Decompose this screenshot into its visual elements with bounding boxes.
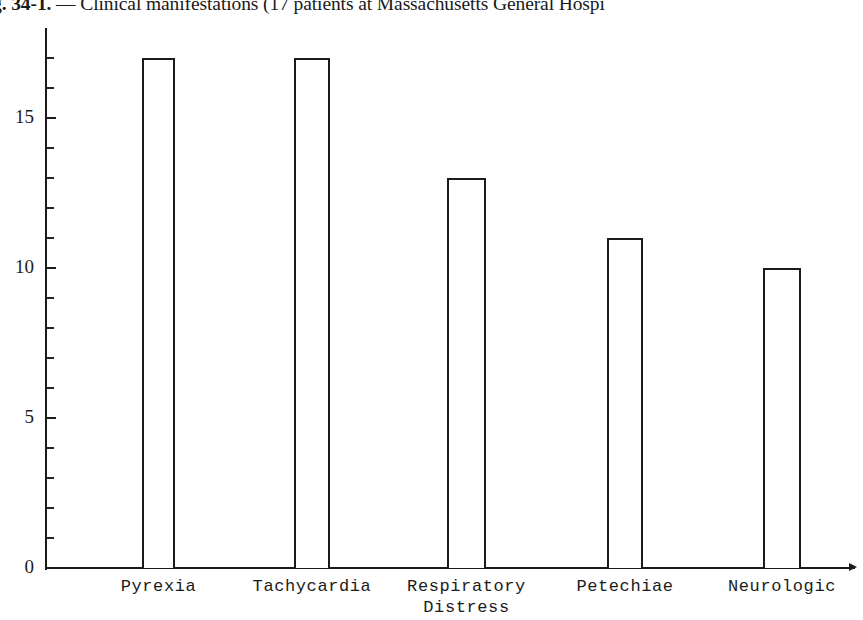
bar	[763, 268, 801, 568]
y-axis-tick-label: 5	[0, 406, 34, 428]
bar-chart-plot-area: 051015 PyrexiaTachycardiaRespiratory Dis…	[0, 0, 863, 620]
y-axis-minor-tick	[47, 87, 54, 89]
y-axis-tick-label: 10	[0, 256, 34, 278]
x-axis-category-label: Respiratory Distress	[377, 576, 557, 618]
y-axis-minor-tick	[47, 207, 54, 209]
x-axis-category-label: Neurologic	[692, 576, 863, 597]
y-axis-minor-tick	[47, 357, 54, 359]
y-axis-line	[45, 28, 47, 570]
y-axis-minor-tick	[47, 57, 54, 59]
y-axis-minor-tick	[47, 387, 54, 389]
bar	[447, 178, 486, 568]
x-axis-category-label: Petechiae	[535, 576, 715, 597]
y-axis-tick-label: 15	[0, 106, 34, 128]
y-axis-major-tick	[46, 267, 56, 269]
y-axis-minor-tick	[47, 327, 54, 329]
y-axis-minor-tick	[47, 237, 54, 239]
bar	[607, 238, 643, 568]
y-axis-minor-tick	[47, 477, 54, 479]
y-axis-major-tick	[46, 117, 56, 119]
x-axis-category-label: Tachycardia	[222, 576, 402, 597]
figure-root: g. 34-1. — Clinical manifestations (17 p…	[0, 0, 863, 620]
y-axis-minor-tick	[47, 507, 54, 509]
y-axis-major-tick	[46, 567, 56, 569]
bar	[142, 58, 175, 568]
y-axis-major-tick	[46, 417, 56, 419]
y-axis-minor-tick	[47, 297, 54, 299]
y-axis-minor-tick	[47, 447, 54, 449]
y-axis-minor-tick	[47, 147, 54, 149]
y-axis-minor-tick	[47, 537, 54, 539]
bar	[294, 58, 330, 568]
y-axis-minor-tick	[47, 177, 54, 179]
x-axis-arrowhead-icon	[849, 563, 857, 571]
y-axis-tick-label: 0	[0, 556, 34, 578]
